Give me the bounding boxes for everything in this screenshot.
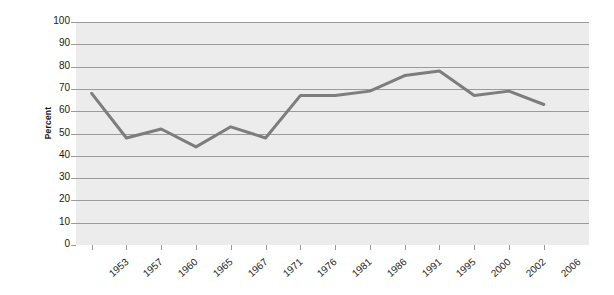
data-series-line	[76, 22, 589, 245]
y-axis-tick-label: 20	[44, 194, 70, 204]
x-axis-tick-mark	[300, 245, 301, 250]
line-chart: Percent 0102030405060708090100 195319571…	[0, 0, 614, 295]
y-axis-tick-label: 60	[44, 105, 70, 115]
x-axis-tick-label: 2002	[524, 256, 548, 279]
x-axis-tick-label: 1965	[211, 256, 235, 279]
x-axis-tick-mark	[474, 245, 475, 250]
x-axis-tick-mark	[126, 245, 127, 250]
y-axis-tick-label: 80	[44, 61, 70, 71]
x-axis-tick-mark	[439, 245, 440, 250]
x-axis-tick-mark	[266, 245, 267, 250]
x-axis-tick-label: 2000	[489, 256, 513, 279]
x-axis-tick-label: 1957	[141, 256, 165, 279]
x-axis-tick-label: 1967	[246, 256, 270, 279]
x-axis-tick-label: 1960	[176, 256, 200, 279]
x-axis-tick-mark	[231, 245, 232, 250]
x-axis-tick-mark	[161, 245, 162, 250]
y-axis-tick-label: 40	[44, 150, 70, 160]
x-axis-tick-label: 1991	[419, 256, 443, 279]
x-axis-tick-label: 1953	[106, 256, 130, 279]
y-axis-tick-label: 70	[44, 83, 70, 93]
y-axis-tick-label: 10	[44, 217, 70, 227]
x-axis-tick-label: 1976	[315, 256, 339, 279]
x-axis-tick-mark	[544, 245, 545, 250]
x-axis-tick-mark	[335, 245, 336, 250]
y-axis-tick-label: 100	[44, 16, 70, 26]
y-axis-tick-label: 0	[44, 239, 70, 249]
x-axis-tick-label: 1995	[454, 256, 478, 279]
x-axis-tick-label: 2006	[559, 256, 583, 279]
x-axis-tick-mark	[405, 245, 406, 250]
x-axis-tick-mark	[196, 245, 197, 250]
x-axis-tick-mark	[370, 245, 371, 250]
x-axis-tick-mark	[509, 245, 510, 250]
x-axis-tick-label: 1986	[385, 256, 409, 279]
y-axis-tick-label: 30	[44, 172, 70, 182]
x-axis-tick-mark	[92, 245, 93, 250]
y-axis-tick-mark	[71, 245, 76, 246]
y-axis-tick-label: 50	[44, 128, 70, 138]
y-axis-tick-labels: 0102030405060708090100	[40, 0, 70, 295]
x-axis-tick-label: 1981	[350, 256, 374, 279]
y-axis-tick-label: 90	[44, 38, 70, 48]
x-axis-tick-label: 1971	[280, 256, 304, 279]
plot-area	[76, 22, 589, 245]
